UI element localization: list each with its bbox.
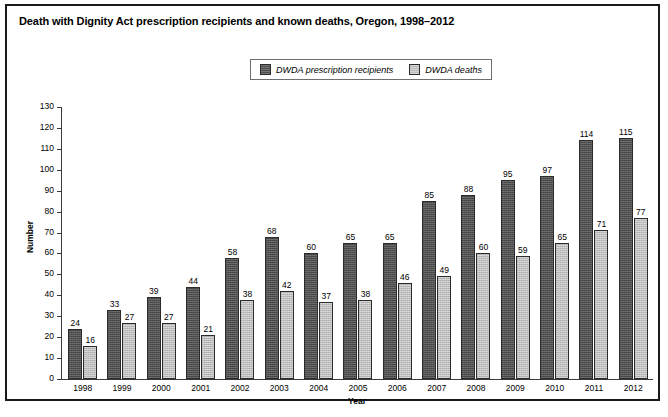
bar[interactable]: 65 (343, 243, 357, 379)
bar-value-label: 60 (306, 242, 315, 252)
bar[interactable]: 39 (147, 297, 161, 379)
y-tick-label: 90 (45, 185, 54, 195)
bar-value-label: 38 (243, 289, 252, 299)
bar-value-label: 88 (464, 184, 473, 194)
bar-value-label: 68 (267, 226, 276, 236)
bar-group: 58382002 (220, 107, 259, 379)
bar[interactable]: 37 (319, 302, 333, 379)
bar[interactable]: 115 (619, 138, 633, 379)
bar-group: 24161998 (63, 107, 102, 379)
tick-mark (57, 128, 61, 129)
x-tick-label: 1999 (113, 383, 132, 393)
bar[interactable]: 42 (280, 291, 294, 379)
bar-group: 60372004 (299, 107, 338, 379)
bar[interactable]: 71 (594, 230, 608, 379)
y-tick-label: 30 (45, 310, 54, 320)
x-tick-label: 2009 (506, 383, 525, 393)
bar-value-label: 85 (424, 190, 433, 200)
x-tick-label: 2011 (585, 383, 603, 393)
bar-group: 114712011 (574, 107, 613, 379)
bar-value-label: 27 (164, 312, 173, 322)
bar-value-label: 42 (282, 280, 291, 290)
tick-mark (57, 233, 61, 234)
bar[interactable]: 65 (383, 243, 397, 379)
bar-group: 97652010 (535, 107, 574, 379)
bar[interactable]: 114 (579, 140, 593, 379)
bar[interactable]: 21 (201, 335, 215, 379)
y-tick-label: 60 (45, 247, 54, 257)
y-tick-label: 70 (45, 227, 54, 237)
bar-value-label: 71 (597, 219, 606, 229)
x-tick-label: 1998 (73, 383, 92, 393)
y-axis-tick: 20 (7, 337, 61, 338)
bar[interactable]: 68 (265, 237, 279, 379)
y-axis-tick: 30 (7, 316, 61, 317)
bar-value-label: 97 (542, 165, 551, 175)
bar[interactable]: 24 (68, 329, 82, 379)
bar[interactable]: 58 (225, 258, 239, 379)
bar[interactable]: 95 (501, 180, 515, 379)
tick-mark (57, 316, 61, 317)
bar-group: 39272000 (142, 107, 181, 379)
x-tick-label: 2000 (152, 383, 171, 393)
tick-mark (57, 379, 61, 380)
bar-value-label: 65 (557, 232, 566, 242)
bar[interactable]: 65 (555, 243, 569, 379)
x-tick-label: 2001 (191, 383, 210, 393)
bar[interactable]: 33 (107, 310, 121, 379)
bar[interactable]: 46 (398, 283, 412, 379)
y-axis-tick: 120 (7, 128, 61, 129)
bar[interactable]: 38 (358, 300, 372, 380)
bar[interactable]: 60 (476, 253, 490, 379)
tick-mark (57, 337, 61, 338)
y-axis-tick: 110 (7, 149, 61, 150)
x-tick-label: 2008 (467, 383, 486, 393)
plot-area: 0102030405060708090100110120130 Number Y… (7, 6, 658, 399)
bar-group: 95592009 (496, 107, 535, 379)
bar[interactable]: 16 (83, 346, 97, 379)
bar-value-label: 95 (503, 169, 512, 179)
bar-value-label: 77 (636, 207, 645, 217)
bar[interactable]: 38 (240, 300, 254, 380)
bar[interactable]: 60 (304, 253, 318, 379)
bar[interactable]: 77 (634, 218, 648, 379)
bar[interactable]: 59 (516, 256, 530, 379)
y-tick-label: 80 (45, 206, 54, 216)
y-axis-label: Number (25, 207, 35, 267)
bar-group: 68422003 (260, 107, 299, 379)
bar[interactable]: 44 (186, 287, 200, 379)
bar[interactable]: 85 (422, 201, 436, 379)
bar-value-label: 38 (361, 289, 370, 299)
bar[interactable]: 27 (122, 323, 136, 379)
figure-frame: Death with Dignity Act prescription reci… (5, 4, 660, 401)
y-tick-label: 130 (40, 101, 54, 111)
x-axis-line (61, 379, 653, 380)
bar-value-label: 39 (149, 286, 158, 296)
tick-mark (57, 253, 61, 254)
bar[interactable]: 49 (437, 276, 451, 379)
bar-value-label: 16 (85, 335, 94, 345)
bar-value-label: 65 (385, 232, 394, 242)
bar-group: 44212001 (181, 107, 220, 379)
tick-mark (57, 170, 61, 171)
bar[interactable]: 97 (540, 176, 554, 379)
bar-value-label: 115 (619, 127, 633, 137)
y-axis-tick: 10 (7, 358, 61, 359)
y-axis-tick: 130 (7, 107, 61, 108)
y-tick-label: 20 (45, 331, 54, 341)
tick-mark (57, 107, 61, 108)
x-tick-label: 2004 (309, 383, 328, 393)
x-tick-label: 2012 (624, 383, 643, 393)
x-tick-label: 2003 (270, 383, 289, 393)
bar[interactable]: 27 (162, 323, 176, 379)
bar-value-label: 44 (188, 276, 197, 286)
y-axis-tick: 90 (7, 191, 61, 192)
bar-value-label: 114 (580, 129, 594, 139)
tick-mark (57, 212, 61, 213)
y-tick-label: 0 (49, 373, 54, 383)
x-tick-label: 2006 (388, 383, 407, 393)
x-tick-label: 2005 (349, 383, 368, 393)
bar-value-label: 24 (70, 318, 79, 328)
bar[interactable]: 88 (461, 195, 475, 379)
y-axis-tick: 40 (7, 295, 61, 296)
